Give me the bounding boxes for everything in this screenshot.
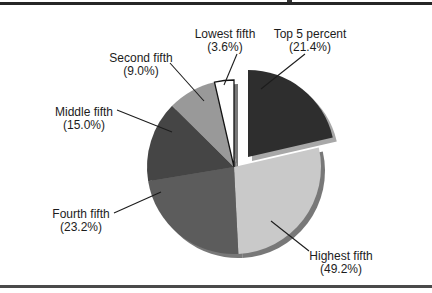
slice-value-middle-fifth: (15.0%): [63, 118, 105, 132]
slice-value-top-5-percent: (21.4%): [289, 40, 331, 54]
slice-label-fourth-fifth: Fourth fifth: [52, 207, 109, 221]
pie-chart: Top 5 percent(21.4%)Highest fifth(49.2%)…: [0, 0, 432, 293]
callout-line-fourth-fifth: [114, 192, 161, 213]
slice-value-second-fifth: (9.0%): [123, 64, 158, 78]
slice-value-highest-fifth: (49.2%): [320, 262, 362, 276]
slice-label-second-fifth: Second fifth: [109, 51, 172, 65]
slice-label-top-5-percent: Top 5 percent: [274, 27, 347, 41]
pie-slice-fourth-fifth: [148, 167, 238, 254]
slice-value-fourth-fifth: (23.2%): [60, 220, 102, 234]
slice-label-highest-fifth: Highest fifth: [309, 249, 372, 263]
figure: Top 5 percent(21.4%)Highest fifth(49.2%)…: [0, 0, 432, 293]
slice-value-lowest-fifth: (3.6%): [207, 40, 242, 54]
pie-slice-highest-fifth: [234, 147, 321, 253]
bottom-rule: [0, 285, 432, 288]
slice-label-middle-fifth: Middle fifth: [55, 105, 113, 119]
slice-label-lowest-fifth: Lowest fifth: [195, 27, 256, 41]
